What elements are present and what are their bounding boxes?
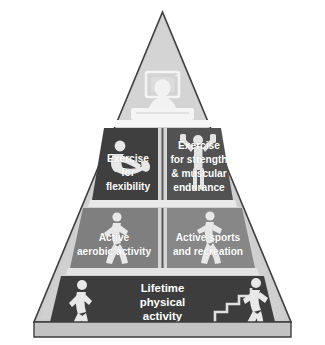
tier-2-right-label-line-4: endurance: [173, 182, 225, 193]
pyramid-graphic: Exercise for flexibility Exercise for st…: [0, 0, 325, 345]
tier-4-label-line-1: Lifetime: [141, 282, 185, 294]
tier-4-label-line-2: physical: [140, 296, 186, 308]
separator-band-2: [88, 200, 237, 207]
tier-3-right-block: Active sports and recreation: [167, 208, 255, 268]
tier-2-right-label-line-1: Exercise: [178, 140, 220, 151]
tier-3-left-label-line-1: Active: [99, 232, 130, 243]
physical-activity-pyramid: Exercise for flexibility Exercise for st…: [0, 0, 325, 345]
tier-2-right-label-line-2: for strength: [170, 154, 227, 165]
tier-2-left-label-line-2: for: [121, 167, 135, 178]
tier-3-left-block: Active aerobic activity: [70, 208, 158, 268]
tier-4-label-line-3: activity: [143, 310, 183, 322]
tier-3-left-label-line-2: aerobic activity: [77, 246, 152, 257]
tier-2-left-label-line-3: flexibility: [106, 181, 150, 192]
separator-band-1: [113, 120, 212, 127]
tier-2-divider-line: [162, 128, 164, 200]
pyramid-base-strip: [34, 322, 291, 337]
tier-2-left-label-line-1: Exercise: [107, 153, 149, 164]
separator-band-3: [66, 268, 259, 275]
tier-3-divider-line: [162, 208, 164, 268]
tier-2-right-label-line-3: & muscular: [171, 168, 227, 179]
tier-3-right-label-line-2: and recreation: [173, 246, 243, 257]
base-strip-panel: [34, 322, 291, 337]
tier-3-right-label-line-1: Active sports: [176, 232, 241, 243]
